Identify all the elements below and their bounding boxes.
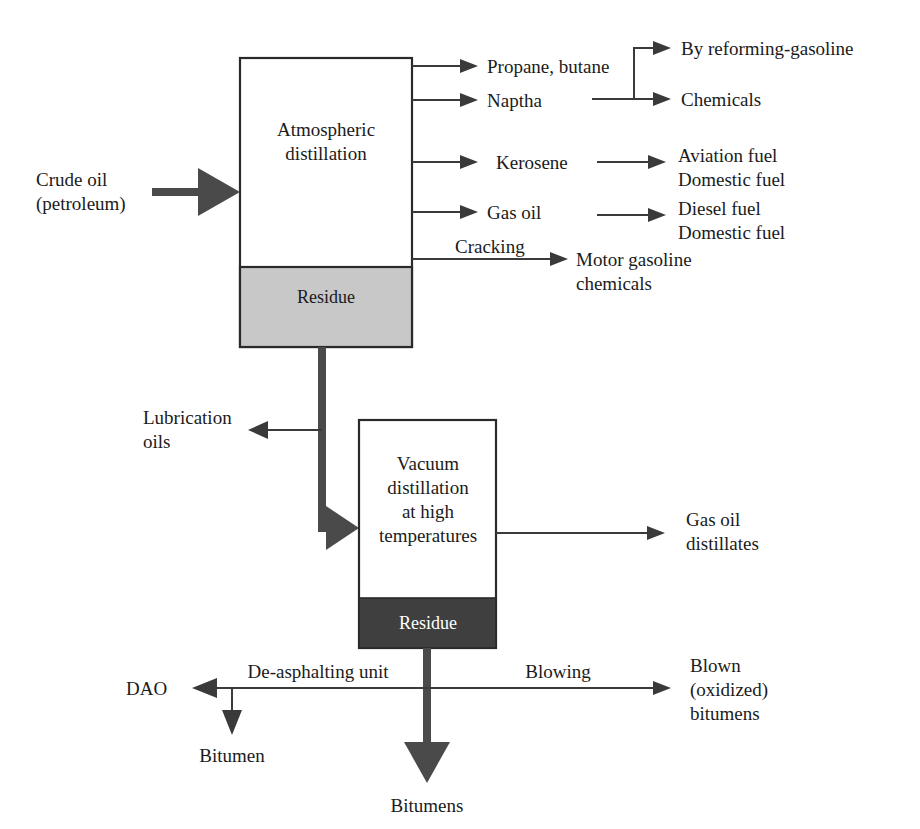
flow-diagram-canvas: Atmospheric distillation Residue Crude o… xyxy=(0,0,920,829)
vacuum-distillation-unit: Vacuum distillation at high temperatures… xyxy=(359,420,496,648)
lubrication-oils-label-line1: Lubrication xyxy=(143,407,232,428)
atmospheric-distillation-label-line1: Atmospheric xyxy=(277,119,375,140)
vacuum-feed-arrowhead xyxy=(326,506,359,550)
blowing-label: Blowing xyxy=(525,661,591,682)
chemicals-label: Chemicals xyxy=(681,89,761,110)
blowing-arrowhead xyxy=(653,681,671,695)
bitumens-arrowhead xyxy=(404,742,450,783)
bitumen-label: Bitumen xyxy=(199,745,265,766)
atmospheric-residue-band xyxy=(240,267,412,347)
gas-oil-distillates-arrowhead xyxy=(647,526,665,540)
bitumen-arrowhead xyxy=(222,710,242,735)
vacuum-residue-label: Residue xyxy=(399,613,457,633)
vacuum-distillation-label-line4: temperatures xyxy=(379,525,477,546)
gas-oil-to-fuels-arrowhead xyxy=(648,208,666,222)
blown-bitumens-label-line3: bitumens xyxy=(690,703,760,724)
propane-butane-arrowhead xyxy=(460,59,478,73)
by-reforming-gasoline-label: By reforming-gasoline xyxy=(681,38,854,59)
kerosene-stream: Kerosene Aviation fuel Domestic fuel xyxy=(412,145,785,190)
kerosene-arrowhead xyxy=(460,155,478,169)
blown-bitumens-label-line1: Blown xyxy=(690,655,741,676)
vacuum-residue-stream: Bitumens De-asphalting unit DAO Bitumen … xyxy=(126,648,768,816)
kerosene-to-fuels-arrowhead xyxy=(648,155,666,169)
cracking-arrowhead xyxy=(550,252,568,266)
propane-butane-stream: Propane, butane xyxy=(412,56,609,77)
gas-oil-distillates-stream: Gas oil distillates xyxy=(496,509,759,554)
gas-oil-distillates-label-line1: Gas oil xyxy=(686,509,740,530)
reforming-junction: By reforming-gasoline Chemicals xyxy=(592,38,854,110)
cracking-stream: Cracking Motor gasoline chemicals xyxy=(412,236,692,294)
atmospheric-distillation-label-line2: distillation xyxy=(285,143,367,164)
gas-oil-distillates-label-line2: distillates xyxy=(686,533,759,554)
by-reforming-gasoline-arrowhead xyxy=(653,41,671,55)
blown-bitumens-label-line2: (oxidized) xyxy=(690,679,768,701)
atmospheric-residue-stream: Lubrication oils xyxy=(143,347,359,550)
motor-gasoline-label: Motor gasoline xyxy=(576,249,692,270)
dao-arrowhead xyxy=(192,678,217,698)
domestic-fuel-gasoil-label: Domestic fuel xyxy=(678,222,785,243)
kerosene-label: Kerosene xyxy=(496,152,568,173)
chemicals-arrowhead xyxy=(653,92,671,106)
vacuum-distillation-label-line2: distillation xyxy=(387,477,469,498)
crude-oil-label-line2: (petroleum) xyxy=(36,193,126,215)
naptha-arrowhead xyxy=(460,93,478,107)
vacuum-distillation-label-line3: at high xyxy=(402,501,455,522)
atmospheric-distillation-unit: Atmospheric distillation Residue xyxy=(240,58,412,347)
dao-label: DAO xyxy=(126,678,167,699)
crude-oil-label-line1: Crude oil xyxy=(36,169,107,190)
crude-oil-feed-arrowhead xyxy=(198,168,240,216)
gas-oil-arrowhead xyxy=(460,205,478,219)
aviation-fuel-label: Aviation fuel xyxy=(678,145,777,166)
bitumens-label: Bitumens xyxy=(391,795,464,816)
lubrication-oils-label-line2: oils xyxy=(143,431,170,452)
lubrication-oils-arrowhead xyxy=(248,421,268,439)
vacuum-distillation-label-line1: Vacuum xyxy=(397,453,459,474)
cracking-label: Cracking xyxy=(455,236,525,257)
crude-oil-feed-stream: Crude oil (petroleum) xyxy=(36,168,240,216)
diesel-fuel-label: Diesel fuel xyxy=(678,198,761,219)
naptha-label: Naptha xyxy=(487,90,542,111)
gas-oil-label: Gas oil xyxy=(487,202,541,223)
motor-chemicals-label: chemicals xyxy=(576,273,652,294)
naptha-stream: Naptha xyxy=(412,90,542,111)
de-asphalting-unit-label: De-asphalting unit xyxy=(248,661,390,682)
propane-butane-label: Propane, butane xyxy=(487,56,609,77)
domestic-fuel-kerosene-label: Domestic fuel xyxy=(678,169,785,190)
atmospheric-residue-label: Residue xyxy=(297,287,355,307)
process-flow-diagram: Atmospheric distillation Residue Crude o… xyxy=(0,0,920,829)
